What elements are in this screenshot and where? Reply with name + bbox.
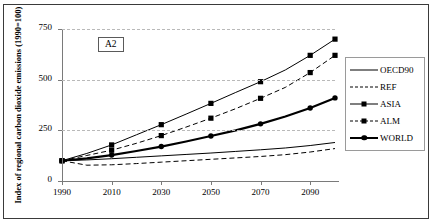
series-marker-alm [208,116,213,121]
legend-swatch-alm [349,114,379,128]
series-marker-alm [109,148,114,153]
x-tick-label-2090: 2090 [287,187,333,197]
y-tick-label-0: 0 [18,174,52,184]
series-marker-alm [159,133,164,138]
series-line-world [62,98,335,161]
legend-item-ref[interactable]: REF [349,78,421,95]
y-tick-label-500: 500 [18,73,52,83]
series-marker-world [208,133,213,138]
x-tick-mark-2090 [310,181,311,185]
legend-item-oecd90[interactable]: OECD90 [349,61,421,78]
legend-item-world[interactable]: WORLD [349,129,421,146]
legend-marker-asia [362,101,367,106]
legend-swatch-ref [349,80,379,94]
series-marker-asia [208,101,213,106]
series-marker-world [307,105,312,110]
series-marker-world [332,95,337,100]
legend-item-alm[interactable]: ALM [349,112,421,129]
series-marker-world [109,152,114,157]
series-line-asia [62,39,335,161]
x-axis-line [62,181,339,182]
x-tick-label-2050: 2050 [188,187,234,197]
gridline-500 [62,80,335,81]
x-tick-mark-2030 [161,181,162,185]
legend-marker-world [361,135,367,141]
series-marker-alm [258,96,263,101]
x-tick-mark-1990 [62,181,63,185]
legend-label-world: WORLD [380,133,413,143]
x-tick-label-2010: 2010 [89,187,135,197]
series-marker-asia [159,122,164,127]
series-marker-alm [308,70,313,75]
series-line-alm [62,55,335,160]
legend-swatch-world [349,131,379,145]
x-tick-mark-2010 [112,181,113,185]
x-tick-mark-2070 [261,181,262,185]
y-tick-label-250: 250 [18,123,52,133]
series-layer [62,29,335,181]
legend-swatch-asia [349,97,379,111]
x-tick-label-2030: 2030 [138,187,184,197]
legend-marker-alm [362,118,367,123]
series-marker-alm [332,53,337,58]
series-marker-world [258,121,263,126]
figure-container: Index of regional carbon dioxide emissio… [0,0,433,224]
legend-swatch-oecd90 [349,63,379,77]
y-tick-mark-500 [58,80,62,81]
y-tick-mark-250 [58,130,62,131]
series-marker-asia [308,53,313,58]
legend: OECD90REFASIAALMWORLD [345,57,425,151]
x-tick-label-1990: 1990 [39,187,85,197]
series-marker-world [159,144,164,149]
gridline-750 [62,29,335,30]
legend-item-asia[interactable]: ASIA [349,95,421,112]
y-tick-label-750: 750 [18,22,52,32]
series-marker-asia [109,142,114,147]
series-marker-asia [332,37,337,42]
legend-label-ref: REF [380,82,397,92]
x-tick-label-2070: 2070 [238,187,284,197]
y-axis-line [62,29,63,181]
plot-area: 0250500750 199020102030205020702090 [62,29,335,181]
legend-label-alm: ALM [380,116,400,126]
gridline-250 [62,130,335,131]
legend-label-asia: ASIA [380,99,401,109]
legend-label-oecd90: OECD90 [380,65,414,75]
x-tick-mark-2050 [211,181,212,185]
y-tick-mark-750 [58,29,62,30]
